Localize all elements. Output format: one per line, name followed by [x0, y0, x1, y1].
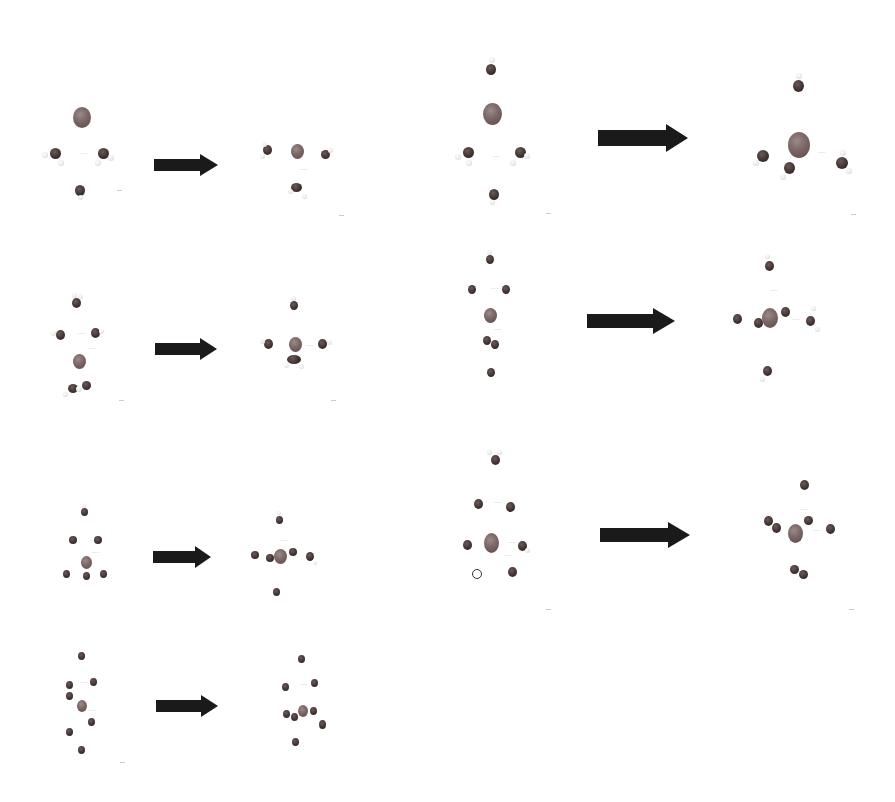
oxygen-atom [784, 162, 795, 174]
hydrogen-atom [811, 306, 816, 311]
hydrogen-atom [78, 294, 83, 299]
oxygen-atom [292, 738, 299, 746]
hydrogen-atom [299, 364, 304, 369]
hydrogen-atom [277, 511, 281, 515]
bond-length-label: ····· [494, 500, 501, 505]
oxygen-atom [310, 707, 317, 715]
oxygen-atom [800, 480, 809, 490]
bond-length-label: ····· [92, 550, 99, 555]
oxygen-atom [806, 316, 815, 326]
oxygen-atom [266, 554, 274, 562]
oxygen-atom [491, 455, 500, 465]
bond-length-label: ····· [491, 286, 498, 291]
hydrogen-atom [260, 339, 265, 344]
oxygen-atom [799, 570, 808, 579]
hydrogen-atom [753, 160, 759, 166]
corner-mark [849, 609, 854, 610]
right-arrow-icon [156, 695, 218, 717]
oxygen-atom [264, 339, 273, 349]
bond-length-label: ····· [80, 151, 87, 156]
hydrogen-atom [291, 296, 296, 301]
hydrogen-atom [455, 154, 461, 160]
hydrogen-atom [327, 340, 332, 345]
ion-atom [291, 144, 304, 159]
hydrogen-atom [288, 189, 293, 194]
hydrogen-atom [51, 331, 56, 336]
oxygen-atom [290, 301, 298, 310]
oxygen-atom [757, 150, 769, 162]
right-arrow-icon [154, 154, 218, 176]
bond-length-label: ····· [306, 343, 313, 348]
oxygen-atom [487, 368, 495, 377]
hydrogen-atom [796, 73, 802, 79]
bond-length-label: ····· [300, 682, 307, 687]
ion-atom [289, 337, 302, 352]
oxygen-atom [100, 570, 107, 578]
bond-length-label: ····· [78, 331, 85, 336]
oxygen-atom [486, 255, 494, 264]
oxygen-atom [491, 340, 499, 349]
bond-length-label: ····· [818, 150, 825, 155]
bond-length-label: ····· [508, 540, 515, 545]
oxygen-atom [273, 588, 280, 596]
oxygen-atom [781, 307, 790, 317]
oxygen-atom [283, 710, 290, 718]
corner-mark [546, 213, 551, 214]
hydrogen-atom [525, 548, 530, 553]
oxygen-atom [804, 516, 813, 525]
hydrogen-atom [82, 504, 86, 508]
corner-mark [117, 190, 122, 191]
oxygen-atom [763, 366, 772, 376]
oxygen-atom [765, 261, 774, 271]
bond-length-label: ····· [88, 708, 95, 713]
oxygen-atom [287, 355, 301, 364]
oxygen-atom [486, 64, 496, 75]
oxygen-atom [319, 720, 326, 729]
corner-mark [120, 762, 125, 763]
bond-length-label: ····· [800, 507, 807, 512]
oxygen-atom [66, 681, 73, 689]
hydrogen-atom [490, 200, 495, 205]
hydrogen-atom [760, 377, 765, 382]
ion-atom [788, 132, 810, 158]
hydrogen-atom [497, 450, 502, 455]
hydrogen-atom [466, 160, 472, 166]
oxygen-atom [63, 570, 70, 578]
oxygen-atom [50, 148, 61, 159]
oxygen-atom [311, 679, 318, 687]
oxygen-atom [790, 565, 799, 574]
hydrogen-atom [76, 386, 82, 392]
oxygen-atom [78, 652, 85, 660]
hydrogen-atom [780, 174, 786, 180]
oxygen-atom [733, 314, 742, 324]
hydrogen-atom [108, 155, 114, 161]
hydrogen-atom [78, 195, 83, 200]
ion-atom [788, 524, 803, 543]
oxygen-atom [282, 683, 289, 691]
hydrogen-atom [260, 154, 265, 159]
right-arrow-icon [587, 308, 675, 334]
corner-mark [546, 609, 551, 610]
corner-mark [851, 214, 856, 215]
ion-atom [298, 705, 308, 717]
oxygen-atom [82, 381, 91, 390]
ion-atom [484, 533, 499, 553]
oxygen-atom [83, 572, 90, 580]
hydrogen-atom [313, 561, 317, 565]
oxygen-atom [826, 524, 835, 534]
hydrogen-atom [58, 160, 64, 166]
oxygen-atom [318, 339, 327, 349]
bond-length-label: ····· [493, 154, 500, 159]
oxygen-atom [276, 516, 283, 524]
hydrogen-atom [846, 168, 852, 174]
hydrogen-atom [524, 153, 530, 159]
oxygen-atom [251, 551, 259, 559]
oxygen-atom [472, 569, 482, 579]
oxygen-atom [793, 80, 804, 92]
bond-length-label: ····· [494, 327, 501, 332]
corner-mark [119, 400, 124, 401]
hydrogen-atom [487, 450, 492, 455]
hydrogen-atom [489, 57, 495, 63]
hydrogen-atom [42, 152, 48, 158]
hydrogen-atom [284, 363, 289, 368]
